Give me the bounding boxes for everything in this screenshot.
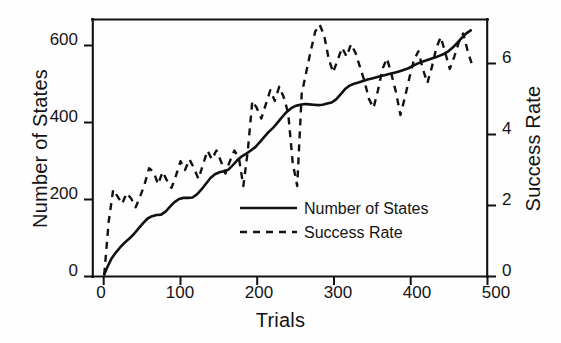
axis-frame	[92, 19, 488, 277]
legend-swatches	[240, 208, 297, 232]
series-line-success-rate	[104, 25, 472, 275]
chart-figure: Number of States Success Rate Trials 0 2…	[0, 0, 561, 343]
plot-area	[0, 0, 561, 343]
y-ticks-left	[84, 46, 93, 277]
series-line-number-of-states	[104, 30, 471, 274]
y-ticks-right	[487, 64, 496, 277]
x-ticks	[104, 277, 488, 285]
